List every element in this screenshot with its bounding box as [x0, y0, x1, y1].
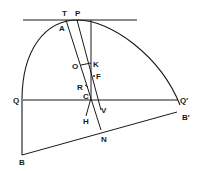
segment-o-k [81, 63, 91, 65]
label-n: N [101, 135, 107, 144]
label-q-prime: Q′ [180, 96, 188, 105]
label-a: A [59, 24, 65, 33]
label-f: F [96, 72, 101, 81]
chord-b-bprime [22, 112, 177, 155]
label-o: O [72, 62, 78, 71]
label-q: Q [13, 96, 19, 105]
label-h: H [83, 117, 89, 126]
label-k: K [93, 60, 99, 69]
label-b-prime: B′ [182, 113, 190, 122]
label-v: V [101, 106, 107, 115]
label-c: C [83, 92, 89, 101]
parabola-diagram: T P A O K F R C Q Q′ V H B′ N B [0, 0, 200, 171]
label-t: T [62, 9, 67, 18]
label-r: R [77, 83, 83, 92]
label-p: P [75, 9, 81, 18]
label-b: B [19, 158, 25, 167]
point-f [93, 75, 95, 77]
